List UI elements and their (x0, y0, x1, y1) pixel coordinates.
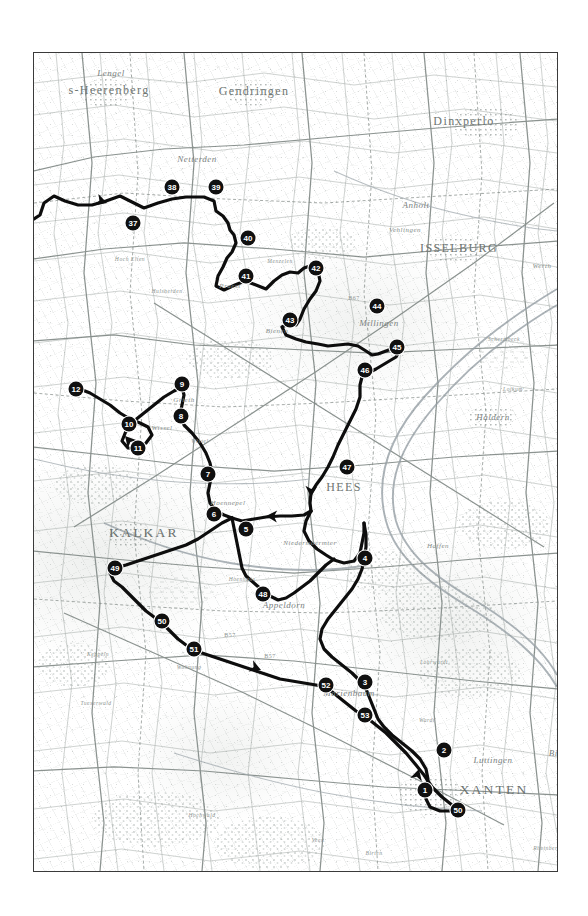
waypoint-marker-7[interactable]: 7 (201, 467, 216, 482)
road-label-b57: B57 (264, 653, 276, 659)
map-canvas: Lengels-HeerenbergGendringenDinxperloAnh… (34, 53, 557, 871)
place-label-bislich: Bislich (549, 748, 558, 758)
place-label-anholt: Anholt (403, 200, 430, 210)
place-label-niedermoermter: Niedermoermter (283, 539, 336, 547)
place-label-hees: HEES (326, 480, 362, 495)
waypoint-marker-8[interactable]: 8 (174, 409, 189, 424)
waypoint-marker-41[interactable]: 41 (239, 269, 254, 284)
waypoint-marker-43[interactable]: 43 (283, 313, 298, 328)
waypoint-marker-10[interactable]: 10 (122, 417, 137, 432)
place-label-haldern: Haldern (476, 412, 510, 422)
place-label-huisberden: Huisberden (152, 288, 183, 294)
waypoint-marker-45[interactable]: 45 (390, 340, 405, 355)
place-label-wohnung: Wohnung (177, 664, 201, 670)
waypoint-marker-47[interactable]: 47 (340, 460, 355, 475)
waypoint-marker-3[interactable]: 3 (358, 675, 373, 690)
route-segment-5 (320, 523, 458, 811)
route-polyline (34, 196, 458, 811)
place-label-bienen: Bienen (266, 327, 288, 335)
place-label-kalkar: KALKAR (109, 525, 178, 541)
waypoint-marker-40[interactable]: 40 (241, 231, 256, 246)
waypoint-marker-49[interactable]: 49 (108, 561, 123, 576)
place-label-wardt: Wardt (419, 717, 435, 723)
place-label-menzelen: Menzelen (267, 258, 292, 264)
place-label-dinxperlo: Dinxperlo (433, 114, 494, 129)
waypoint-marker-4[interactable]: 4 (358, 551, 373, 566)
place-label-werth: Werth (533, 262, 552, 270)
place-label-wissel: Wissel (152, 424, 173, 432)
place-label-hoch-elten: Hoch Elten (115, 256, 145, 262)
place-label-s-heerenberg: s-Heerenberg (68, 83, 149, 98)
place-label-haffen: Haffen (427, 542, 449, 550)
place-label-schermbeck: Schermbeck (488, 336, 520, 342)
waypoint-marker-1[interactable]: 1 (418, 783, 433, 798)
place-label-rheinberg: Rheinberg (533, 845, 558, 851)
waypoint-marker-46[interactable]: 46 (358, 363, 373, 378)
place-label-keppeln: Keppeln (87, 651, 109, 657)
waypoint-marker-2[interactable]: 2 (437, 743, 452, 758)
route-segment-2 (304, 511, 364, 563)
place-label-birten: Birten (366, 850, 383, 856)
map-page: Lengels-HeerenbergGendringenDinxperloAnh… (0, 0, 588, 916)
waypoint-marker-50[interactable]: 50 (155, 614, 170, 629)
place-label-hochwald: Hochwald (189, 812, 216, 818)
waypoint-marker-12[interactable]: 12 (69, 382, 84, 397)
waypoint-marker-48[interactable]: 48 (256, 587, 271, 602)
place-label-xanten: XANTEN (460, 782, 529, 798)
place-label-millingen: Millingen (359, 318, 399, 328)
road-label-b67: B67 (348, 295, 360, 301)
place-label-lengel: Lengel (97, 68, 125, 78)
place-label-netterden: Netterden (177, 154, 217, 164)
waypoint-marker-37[interactable]: 37 (126, 216, 141, 231)
place-label-veen: Veen (312, 837, 325, 843)
place-label-grieth: Grieth (173, 396, 194, 404)
waypoint-marker-9[interactable]: 9 (175, 377, 190, 392)
waypoint-marker-6[interactable]: 6 (207, 507, 222, 522)
route-segment-6 (110, 518, 458, 810)
route-direction-arrows (95, 194, 425, 781)
place-label-tuexerwald: Tuexerwald (80, 700, 111, 706)
waypoint-marker-38[interactable]: 38 (165, 180, 180, 195)
place-label-lohrwardt: Lohrwardt (420, 659, 448, 665)
place-label-isselburg: ISSELBURG (420, 241, 498, 256)
place-label-gendringen: Gendringen (219, 84, 290, 99)
waypoint-marker-53[interactable]: 53 (358, 708, 373, 723)
place-label-wissel: Wissel (191, 438, 208, 444)
place-label-vehlingen: Vehlingen (389, 226, 421, 234)
arrow-route-south (305, 486, 317, 497)
waypoint-marker-52[interactable]: 52 (319, 678, 334, 693)
place-label-appeldorn: Appeldorn (263, 600, 306, 610)
route-layer (34, 53, 557, 871)
waypoint-marker-50b[interactable]: 50 (451, 803, 466, 818)
place-label-luttingen: Luttingen (473, 755, 512, 765)
waypoint-marker-5[interactable]: 5 (239, 522, 254, 537)
waypoint-marker-42[interactable]: 42 (309, 261, 324, 276)
waypoint-marker-11[interactable]: 11 (131, 441, 146, 456)
waypoint-marker-39[interactable]: 39 (209, 180, 224, 195)
place-label-hoenhaus: Hoenhaus (229, 576, 256, 582)
waypoint-marker-44[interactable]: 44 (370, 299, 385, 314)
place-label-loikum: Loikum (503, 386, 523, 392)
road-label-b57: B57 (224, 632, 236, 638)
map-frame: Lengels-HeerenbergGendringenDinxperloAnh… (33, 52, 558, 872)
waypoint-marker-51[interactable]: 51 (187, 642, 202, 657)
place-label-praest: Praest (219, 282, 240, 290)
